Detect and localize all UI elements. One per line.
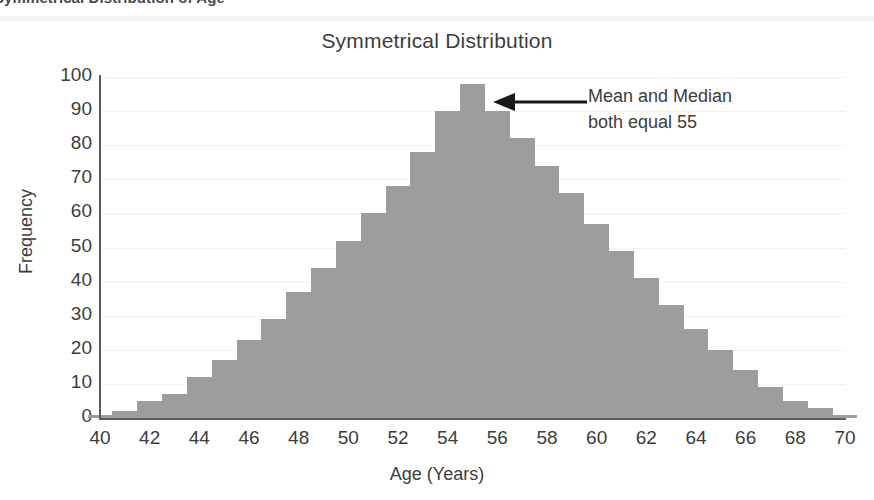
x-tick-label: 64 (674, 427, 718, 449)
y-tick-label: 50 (46, 235, 92, 257)
annotation-arrow-icon (493, 93, 589, 111)
histogram-bar (559, 193, 584, 418)
chart-figure: Symmetrical Distribution Frequency Age (… (0, 21, 874, 500)
histogram-bar (311, 268, 336, 418)
histogram-bar (361, 213, 386, 418)
y-tick-label: 90 (46, 98, 92, 120)
y-axis-label: Frequency (16, 172, 37, 292)
x-tick-label: 58 (525, 427, 569, 449)
x-tick-label: 54 (426, 427, 470, 449)
x-tick-label: 48 (277, 427, 321, 449)
y-axis-line (99, 75, 101, 420)
histogram-bar (634, 278, 659, 418)
histogram-bar (137, 401, 162, 418)
y-tick-label: 0 (46, 405, 92, 427)
histogram-bar (162, 394, 187, 418)
y-tick-label: 100 (46, 64, 92, 86)
x-tick-label: 42 (128, 427, 172, 449)
x-tick-label: 52 (376, 427, 420, 449)
histogram-bar (510, 138, 535, 418)
histogram-bar (460, 84, 485, 418)
histogram-bar (659, 305, 684, 418)
y-tick-label: 80 (46, 132, 92, 154)
x-tick-label: 62 (624, 427, 668, 449)
x-tick-label: 66 (724, 427, 768, 449)
x-tick-label: 40 (78, 427, 122, 449)
histogram-bar (435, 111, 460, 418)
x-tick-label: 50 (326, 427, 370, 449)
histogram-bar (584, 224, 609, 418)
annotation-line-2: both equal 55 (588, 109, 818, 135)
histogram-bar (684, 329, 709, 418)
histogram-bar (758, 387, 783, 418)
x-tick-label: 44 (177, 427, 221, 449)
histogram-bar (112, 411, 137, 418)
histogram-bar (410, 152, 435, 418)
chart-title: Symmetrical Distribution (0, 29, 874, 53)
histogram-bar (212, 360, 237, 418)
histogram-bar (261, 319, 286, 418)
histogram-bar (336, 241, 361, 418)
x-tick-label: 70 (823, 427, 867, 449)
x-tick-label: 68 (773, 427, 817, 449)
histogram-bar (187, 377, 212, 418)
histogram-bar (783, 401, 808, 418)
x-tick-label: 46 (227, 427, 271, 449)
page-header-title: Symmetrical Distribution of Age (0, 0, 225, 6)
histogram-bar (485, 111, 510, 418)
y-tick-label: 30 (46, 303, 92, 325)
histogram-bar (535, 166, 560, 418)
histogram-bar (708, 350, 733, 418)
y-tick-label: 40 (46, 269, 92, 291)
y-tick-label: 20 (46, 337, 92, 359)
x-tick-label: 56 (475, 427, 519, 449)
annotation-line-1: Mean and Median (588, 83, 818, 109)
page-header-band: Symmetrical Distribution of Age (0, 0, 874, 16)
histogram-bar (808, 408, 833, 418)
x-axis-tick-labels: 40424446485052545658606264666870 (0, 427, 874, 455)
histogram-bar (386, 186, 411, 418)
histogram-bar (286, 292, 311, 418)
histogram-bar (237, 340, 262, 418)
y-tick-label: 70 (46, 166, 92, 188)
x-tick-label: 60 (575, 427, 619, 449)
x-axis-label: Age (Years) (0, 464, 874, 485)
y-tick-label: 60 (46, 200, 92, 222)
y-tick-label: 10 (46, 371, 92, 393)
x-axis-line (99, 418, 846, 420)
histogram-bar (733, 370, 758, 418)
histogram-bar (609, 251, 634, 418)
annotation-text: Mean and Median both equal 55 (588, 83, 818, 135)
